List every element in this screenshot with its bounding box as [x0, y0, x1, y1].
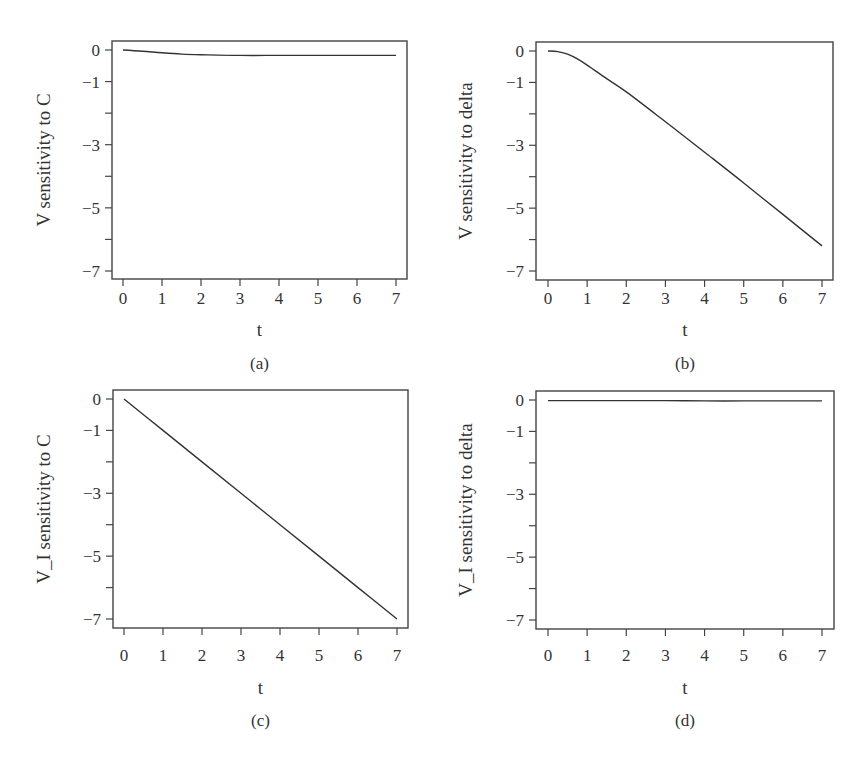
x-axis-label: t: [682, 319, 688, 340]
series-line: [123, 50, 396, 55]
chart-panel-b: 0−1−3−5−701234567tV sensitivity to delta…: [455, 42, 833, 373]
x-tick-label: 1: [159, 646, 168, 665]
panel-caption: (d): [675, 711, 695, 730]
panel-caption: (a): [250, 354, 269, 373]
x-tick-label: 7: [818, 289, 827, 308]
x-tick-label: 6: [354, 646, 363, 665]
x-tick-label: 3: [661, 646, 670, 665]
plot-frame: [536, 42, 833, 280]
y-axis-label: V sensitivity to C: [33, 93, 54, 226]
y-tick-label: 0: [516, 391, 525, 410]
x-tick-label: 2: [197, 289, 206, 308]
x-tick-label: 4: [276, 646, 285, 665]
panel-caption: (b): [675, 354, 695, 373]
x-tick-label: 1: [583, 646, 592, 665]
plot-frame: [536, 391, 834, 629]
x-tick-label: 0: [544, 646, 553, 665]
chart-panel-a: 0−1−3−5−701234567tV sensitivity to C(a): [33, 41, 407, 373]
x-axis-label: t: [682, 677, 688, 698]
y-tick-label: −7: [506, 611, 525, 630]
y-tick-label: −1: [83, 421, 101, 440]
x-tick-label: 2: [622, 289, 631, 308]
x-tick-label: 0: [120, 646, 129, 665]
y-tick-label: 0: [516, 42, 525, 61]
y-tick-label: −1: [506, 73, 524, 92]
y-tick-label: −5: [506, 548, 524, 567]
y-tick-label: 0: [92, 41, 101, 60]
y-tick-label: −5: [506, 199, 524, 218]
plot-frame: [112, 41, 407, 279]
x-tick-label: 4: [275, 289, 284, 308]
panel-caption: (c): [251, 711, 270, 730]
x-tick-label: 3: [237, 646, 246, 665]
x-tick-label: 4: [700, 646, 709, 665]
sensitivity-figure: 0−1−3−5−701234567tV sensitivity to C(a)0…: [0, 0, 867, 765]
x-tick-label: 7: [818, 646, 827, 665]
y-tick-label: −3: [506, 136, 524, 155]
x-tick-label: 7: [392, 289, 401, 308]
y-tick-label: 0: [93, 390, 102, 409]
y-tick-label: −3: [506, 485, 524, 504]
x-tick-label: 7: [393, 646, 402, 665]
x-tick-label: 3: [661, 289, 670, 308]
x-tick-label: 6: [353, 289, 362, 308]
x-axis-label: t: [258, 677, 264, 698]
y-tick-label: −3: [82, 136, 100, 155]
series-line: [124, 399, 397, 619]
x-tick-label: 5: [314, 289, 323, 308]
x-tick-label: 2: [622, 646, 631, 665]
y-axis-label: V sensitivity to delta: [455, 82, 476, 240]
x-tick-label: 5: [739, 646, 748, 665]
chart-panel-d: 0−1−3−5−701234567tV_I sensitivity to del…: [455, 391, 834, 730]
y-tick-label: −1: [506, 422, 524, 441]
y-tick-label: −5: [83, 547, 101, 566]
y-axis-label: V_I sensitivity to delta: [455, 423, 476, 597]
chart-panel-c: 0−1−3−5−701234567tV_I sensitivity to C(c…: [33, 390, 408, 730]
x-tick-label: 3: [236, 289, 245, 308]
x-tick-label: 1: [158, 289, 167, 308]
x-axis-label: t: [257, 319, 263, 340]
y-tick-label: −3: [83, 484, 101, 503]
y-tick-label: −7: [83, 610, 102, 629]
x-tick-label: 5: [739, 289, 748, 308]
x-tick-label: 1: [583, 289, 592, 308]
y-axis-label: V_I sensitivity to C: [33, 434, 54, 583]
y-tick-label: −1: [82, 73, 100, 92]
y-tick-label: −7: [82, 262, 101, 281]
series-line: [548, 51, 822, 246]
x-tick-label: 4: [700, 289, 709, 308]
x-tick-label: 2: [198, 646, 207, 665]
x-tick-label: 0: [544, 289, 553, 308]
x-tick-label: 0: [119, 289, 128, 308]
x-tick-label: 6: [779, 646, 788, 665]
y-tick-label: −7: [506, 262, 525, 281]
y-tick-label: −5: [82, 199, 100, 218]
x-tick-label: 6: [779, 289, 788, 308]
x-tick-label: 5: [315, 646, 324, 665]
